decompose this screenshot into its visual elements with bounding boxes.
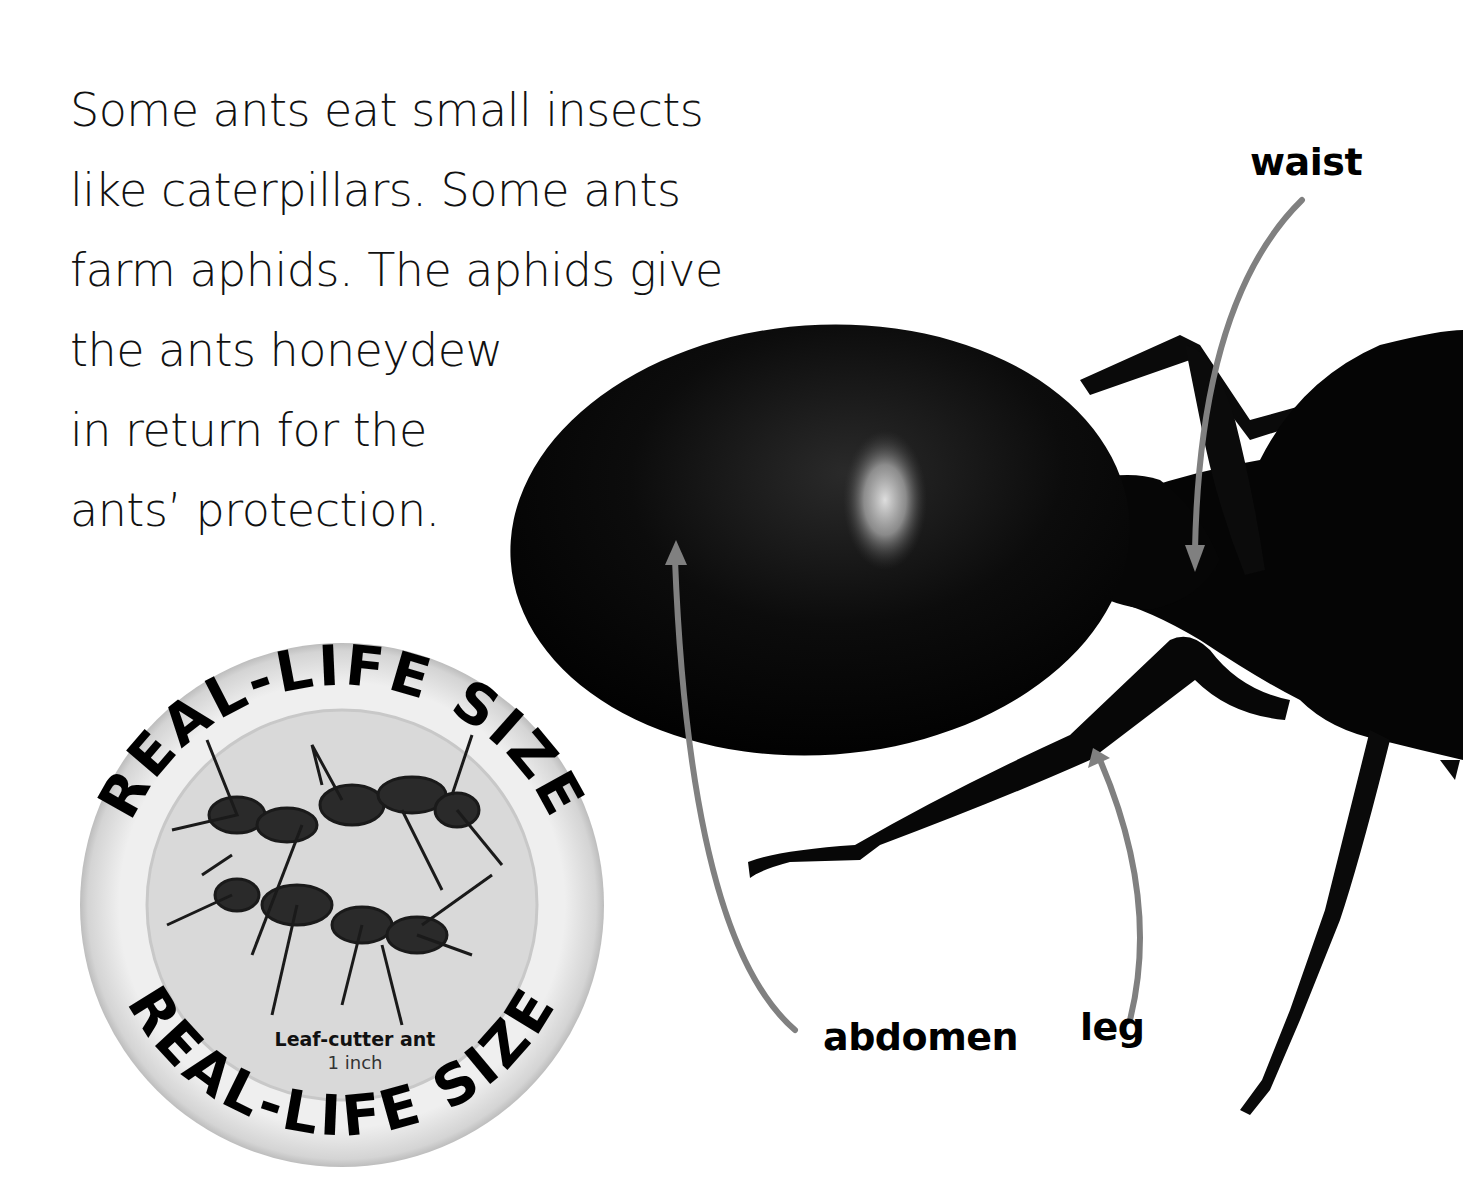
species-size: 1 inch	[265, 1052, 445, 1073]
label-waist: waist	[1250, 140, 1362, 184]
body-line: farm aphids. The aphids give	[70, 230, 723, 310]
label-leg: leg	[1080, 1005, 1145, 1049]
badge-caption: Leaf-cutter ant 1 inch	[265, 1028, 445, 1073]
body-line: Some ants eat small insects	[70, 70, 723, 150]
body-line: in return for the	[70, 390, 723, 470]
body-line: the ants honeydew	[70, 310, 723, 390]
body-paragraph: Some ants eat small insects like caterpi…	[70, 70, 723, 550]
body-line: ants’ protection.	[70, 470, 723, 550]
real-life-size-badge: REAL-LIFE SIZE REAL-LIFE SIZE	[72, 625, 612, 1185]
species-name: Leaf-cutter ant	[265, 1028, 445, 1050]
label-abdomen: abdomen	[823, 1015, 1018, 1059]
body-line: like caterpillars. Some ants	[70, 150, 723, 230]
